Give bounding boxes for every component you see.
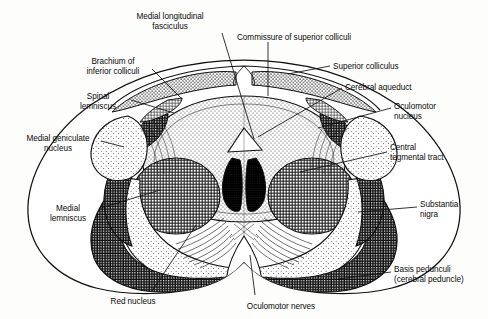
midbrain-cross-section-figure: Medial longitudinal fasciculus Commissur…: [0, 0, 488, 319]
label-medial-longitudinal-fasciculus: Medial longitudinal fasciculus: [137, 12, 204, 31]
label-oculomotor-nucleus: Oculomotor nucleus: [394, 102, 436, 121]
label-commissure-of-superior-colliculi: Commissure of superior colliculi: [237, 33, 351, 43]
label-medial-geniculate-nucleus: Medial geniculate nucleus: [27, 134, 90, 153]
label-substantia-nigra: Substantia nigra: [420, 200, 458, 219]
label-medial-lemniscus: Medial lemniscus: [50, 204, 86, 223]
label-red-nucleus: Red nucleus: [111, 297, 156, 307]
label-central-tegmental-tract: Central tegmental tract: [390, 143, 443, 162]
label-cerebral-aqueduct: Cerebral aqueduct: [345, 83, 412, 93]
label-superior-colliculus: Superior colliculus: [333, 62, 399, 72]
label-spinal-lemniscus: Spinal lemniscus: [80, 92, 116, 111]
label-basis-pedunculi: Basis pedunculi (cerebral peduncle): [394, 265, 464, 284]
label-brachium-of-inferior-colliculi: Brachium of inferior colliculi: [87, 57, 140, 76]
label-oculomotor-nerves: Oculomotor nerves: [247, 302, 315, 312]
